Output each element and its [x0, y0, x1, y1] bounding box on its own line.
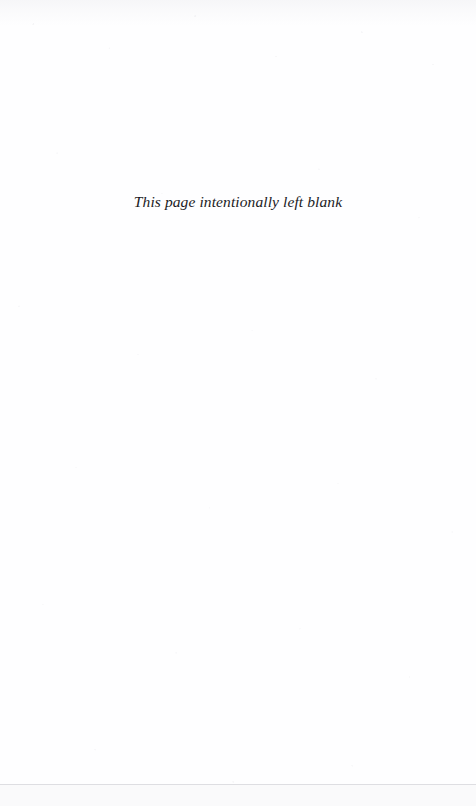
scan-seam-line — [0, 784, 476, 785]
scanned-book-page: This page intentionally left blank — [0, 0, 476, 806]
scan-bottom-shading — [0, 785, 476, 806]
scan-top-edge-shading — [0, 0, 476, 26]
intentionally-blank-notice: This page intentionally left blank — [0, 192, 476, 212]
paper-speckle-texture — [0, 0, 476, 806]
